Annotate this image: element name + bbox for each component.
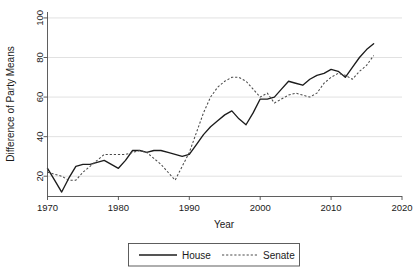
legend-label-senate: Senate <box>263 250 295 261</box>
x-axis-title: Year <box>214 219 235 230</box>
y-tick-label-60: 60 <box>34 92 45 103</box>
legend-label-house: House <box>182 250 211 261</box>
x-tick-label-1970: 1970 <box>37 202 58 213</box>
party-means-line-chart: 20406080100 197019801990200020102020 Dif… <box>0 0 416 272</box>
x-tick-label-1980: 1980 <box>108 202 129 213</box>
x-tick-label-1990: 1990 <box>179 202 200 213</box>
chart-legend: House Senate <box>129 244 300 267</box>
y-tick-label-80: 80 <box>34 52 45 63</box>
x-tick-label-2020: 2020 <box>391 202 412 213</box>
y-axis-title: Difference of Party Means <box>5 46 16 161</box>
x-tick-label-2010: 2010 <box>321 202 342 213</box>
y-tick-label-40: 40 <box>34 131 45 142</box>
x-tick-label-2000: 2000 <box>250 202 271 213</box>
y-tick-label-20: 20 <box>34 171 45 182</box>
figure-background <box>0 0 416 272</box>
figure-container: 20406080100 197019801990200020102020 Dif… <box>0 0 416 272</box>
y-tick-label-100: 100 <box>34 10 45 26</box>
